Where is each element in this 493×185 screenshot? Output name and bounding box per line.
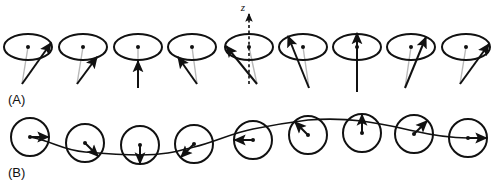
ellipse-center-dot	[81, 45, 85, 49]
precession-cone	[279, 34, 327, 88]
spin-wave-figure: (A) (B) z	[0, 0, 493, 185]
precession-cone	[387, 34, 435, 88]
precession-cone	[59, 34, 107, 84]
spin-circle	[234, 121, 272, 159]
ellipse-center-dot	[26, 45, 30, 49]
panel-a-precession-cones	[4, 14, 490, 92]
spin-direction-arrow	[295, 122, 308, 135]
spin-vector-arrow	[77, 57, 97, 84]
spin-circle	[343, 114, 381, 152]
spin-circle	[11, 118, 49, 156]
spin-circle	[121, 126, 159, 164]
z-axis-label: z	[240, 1, 246, 13]
spin-direction-arrow	[85, 143, 98, 156]
ellipse-center-dot	[136, 45, 140, 49]
precession-cone	[4, 34, 52, 84]
precession-cone	[442, 34, 490, 84]
ellipse-center-dot	[301, 45, 305, 49]
precession-cone	[333, 33, 381, 92]
ellipse-center-dot	[464, 45, 468, 49]
spin-vector-arrow	[460, 44, 489, 84]
ellipse-center-dot	[409, 45, 413, 49]
precession-cone	[168, 34, 216, 84]
panel-b-label: (B)	[8, 165, 25, 180]
panel-a-label: (A)	[8, 92, 25, 107]
spin-vector-arrow	[22, 43, 51, 84]
ellipse-center-dot	[190, 45, 194, 49]
panel-b-top-view-circles	[11, 114, 487, 164]
spin-circle	[289, 116, 327, 154]
spin-circle	[66, 124, 104, 162]
precession-cone	[114, 34, 162, 88]
